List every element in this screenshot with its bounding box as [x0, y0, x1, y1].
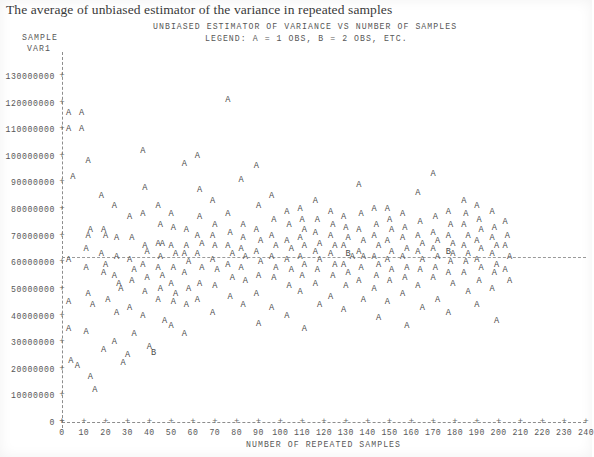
data-point: A [256, 202, 261, 211]
x-tick-mark: + [81, 418, 86, 427]
data-point: A [284, 207, 289, 216]
x-tick-mark: + [343, 418, 348, 427]
x-tick-mark: + [474, 418, 479, 427]
data-point: A [446, 309, 451, 318]
data-point: A [448, 221, 453, 230]
data-point: A [86, 157, 91, 166]
x-tick-label: 150 [381, 428, 397, 437]
data-point: A [121, 359, 126, 368]
y-tick-mark: + [59, 125, 64, 134]
x-tick-label: 40 [144, 428, 155, 437]
y-tick-mark: + [59, 72, 64, 81]
data-point: A [332, 261, 337, 270]
data-point: A [269, 231, 274, 240]
data-point: A [230, 250, 235, 259]
data-point: A [420, 303, 425, 312]
x-tick-label: 230 [556, 428, 572, 437]
x-tick-label: 170 [425, 428, 441, 437]
data-point: A [131, 266, 136, 275]
y-tick-mark: + [59, 338, 64, 347]
data-point: A [140, 146, 145, 155]
data-point: A [140, 261, 145, 270]
data-point: A [284, 255, 289, 264]
data-point: A [376, 242, 381, 251]
x-tick-label: 180 [447, 428, 463, 437]
y-tick-label: 40000000 [11, 311, 55, 320]
data-point: A [350, 253, 355, 262]
data-point: A [389, 266, 394, 275]
data-point: A [101, 269, 106, 278]
data-point: A [140, 210, 145, 219]
x-tick-label: 20 [100, 428, 111, 437]
data-point: A [66, 325, 71, 334]
data-point: A [476, 215, 481, 224]
x-tick-mark: + [190, 418, 195, 427]
data-point: A [195, 152, 200, 161]
x-tick-mark: + [561, 418, 566, 427]
x-tick-label: 10 [78, 428, 89, 437]
data-point: A [374, 271, 379, 280]
data-point: A [302, 325, 307, 334]
data-point: A [171, 298, 176, 307]
data-point: A [243, 277, 248, 286]
data-point: A [210, 231, 215, 240]
data-point: A [182, 160, 187, 169]
data-point: A [385, 298, 390, 307]
data-point: A [83, 327, 88, 336]
data-point: A [431, 170, 436, 179]
data-point: A [142, 183, 147, 192]
data-point: A [359, 263, 364, 272]
data-point: A [269, 253, 274, 262]
data-point: A [158, 285, 163, 294]
data-point: A [271, 215, 276, 224]
data-point: A [184, 226, 189, 235]
data-point: A [417, 266, 422, 275]
data-point: A [155, 202, 160, 211]
data-point: A [404, 322, 409, 331]
data-point: A [463, 258, 468, 267]
data-point: A [101, 346, 106, 355]
data-point: A [127, 213, 132, 222]
y-tick-mark: + [59, 391, 64, 400]
data-point: A [273, 263, 278, 272]
data-point: A [400, 234, 405, 243]
x-tick-label: 30 [122, 428, 133, 437]
data-point: A [385, 255, 390, 264]
data-point: A [507, 253, 512, 262]
data-point: A [313, 197, 318, 206]
data-point: A [479, 263, 484, 272]
data-point: A [212, 282, 217, 291]
data-point: A [86, 290, 91, 299]
data-point: A [145, 274, 150, 283]
data-point: A [225, 210, 230, 219]
data-point: A [269, 191, 274, 200]
x-tick-label: 130 [338, 428, 354, 437]
y-tick-mark: + [59, 258, 64, 267]
x-tick-mark: + [59, 418, 64, 427]
data-point: A [129, 234, 134, 243]
data-point: A [105, 295, 110, 304]
data-point: A [415, 189, 420, 198]
data-point: A [389, 226, 394, 235]
data-point: A [254, 290, 259, 299]
data-point: A [446, 269, 451, 278]
x-tick-label: 0 [59, 428, 64, 437]
data-point: A [286, 221, 291, 230]
data-point: A [210, 309, 215, 318]
data-point: B [151, 349, 156, 358]
data-point: A [184, 301, 189, 310]
data-point: A [225, 261, 230, 270]
data-point: A [490, 207, 495, 216]
data-point: A [284, 311, 289, 320]
y-tick-label: 10000000 [11, 391, 55, 400]
x-tick-mark: + [430, 418, 435, 427]
data-point: A [289, 245, 294, 254]
data-point: A [254, 247, 259, 256]
data-point: A [446, 207, 451, 216]
data-point: A [241, 221, 246, 230]
data-point: A [114, 253, 119, 262]
data-point: A [230, 274, 235, 283]
x-axis-caption: NUMBER OF REPEATED SAMPLES [246, 440, 401, 449]
data-point: A [114, 234, 119, 243]
data-point: A [256, 319, 261, 328]
